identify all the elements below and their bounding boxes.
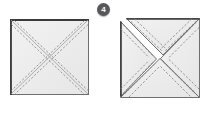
right-panel-square-cut-into-four-triangles xyxy=(0,0,208,116)
figure-root: 4 xyxy=(0,0,208,116)
